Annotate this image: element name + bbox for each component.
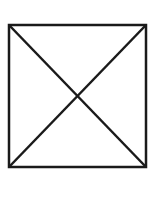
square-with-diagonals-diagram xyxy=(0,0,153,199)
